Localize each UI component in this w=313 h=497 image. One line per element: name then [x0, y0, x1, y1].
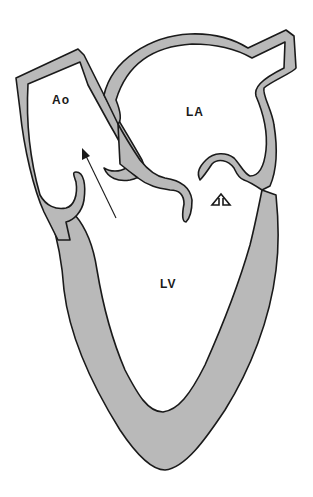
- left-ventricle-wall: [50, 190, 278, 470]
- heart-diagram: Ao LA LV: [0, 0, 313, 497]
- mitral-up-arrow-icon: [212, 194, 230, 205]
- left-ventricle-label: LV: [160, 277, 176, 291]
- aorta-label: Ao: [52, 93, 70, 107]
- left-atrium-label: LA: [186, 105, 204, 119]
- outflow-arrow-icon: [82, 148, 116, 218]
